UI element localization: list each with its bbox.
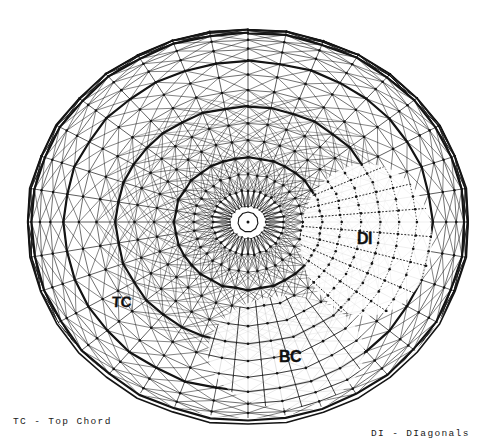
callout-label-di: DI [357, 230, 372, 248]
callout-label-tc: TC [111, 293, 131, 310]
legend-right: DI - DIagonals [371, 404, 470, 443]
legend-line-tc: TC - Top Chord [13, 416, 133, 428]
legend-line-di: DI - DIagonals [371, 428, 470, 440]
legend-left: TC - Top Chord BC - Bottom Chord [13, 392, 133, 443]
dome-diagram [0, 0, 493, 443]
center-hub [238, 212, 258, 232]
dome-figure: TC BC DI TC - Top Chord BC - Bottom Chor… [0, 0, 493, 443]
callout-label-bc: BC [279, 348, 301, 366]
